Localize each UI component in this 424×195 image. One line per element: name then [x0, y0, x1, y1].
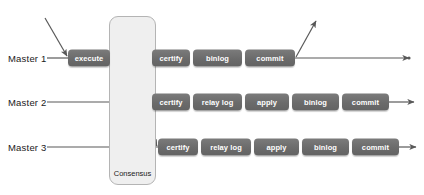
stage-master-3-apply[interactable]: apply: [254, 139, 299, 156]
stage-master-1-certify[interactable]: certify: [152, 50, 190, 67]
consensus-label: Consensus: [109, 169, 156, 178]
stage-master-3-relay-log[interactable]: relay log: [201, 139, 251, 156]
row-label-master-1: Master 1: [8, 53, 47, 64]
connector-commit-up-master-1: [296, 21, 316, 57]
consensus-box: [109, 16, 156, 185]
stage-master-1-commit[interactable]: commit: [245, 50, 295, 67]
stage-master-3-commit[interactable]: commit: [352, 139, 399, 156]
connector-input-arrow-master-1: [45, 18, 67, 56]
stage-master-3-binlog[interactable]: binlog: [302, 139, 349, 156]
stage-master-1-binlog[interactable]: binlog: [193, 50, 242, 67]
stage-master-2-commit[interactable]: commit: [342, 94, 389, 111]
stage-master-2-certify[interactable]: certify: [152, 94, 190, 111]
stage-master-3-certify[interactable]: certify: [158, 139, 198, 156]
diagram-canvas: Consensus Master 1executecertifybinlogco…: [0, 0, 424, 195]
connector-endpoint-commit-out-master-1: [407, 56, 410, 59]
row-label-master-2: Master 2: [8, 97, 47, 108]
row-label-master-3: Master 3: [8, 142, 47, 153]
stage-master-2-binlog[interactable]: binlog: [292, 94, 339, 111]
stage-master-1-execute[interactable]: execute: [68, 50, 110, 67]
stage-master-2-apply[interactable]: apply: [245, 94, 289, 111]
stage-master-2-relay-log[interactable]: relay log: [193, 94, 242, 111]
